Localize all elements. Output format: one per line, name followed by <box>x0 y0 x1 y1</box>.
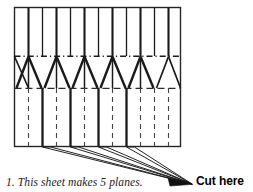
cutting-template-diagram <box>0 0 253 192</box>
figure-caption: 1. This sheet makes 5 planes. <box>6 176 143 189</box>
figure-root: Cut here 1. This sheet makes 5 planes. <box>0 0 253 192</box>
cut-here-label: Cut here <box>196 174 244 188</box>
